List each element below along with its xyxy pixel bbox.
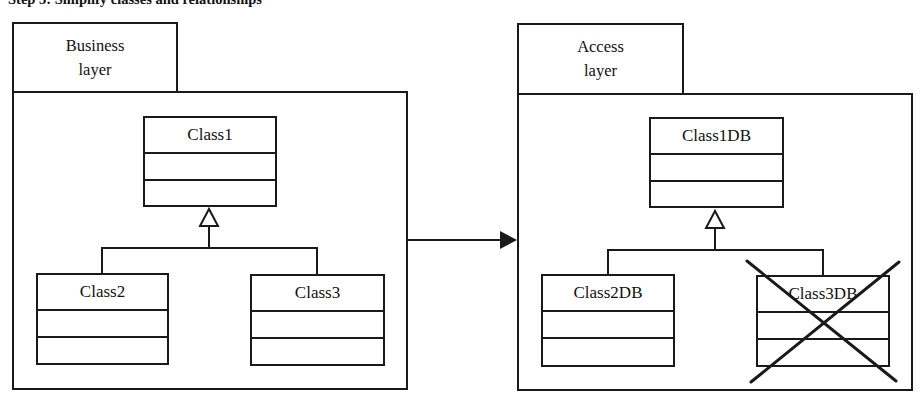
class-attributes [252,312,383,339]
class-name: Class2 [38,275,167,311]
class-attributes [543,312,673,339]
class-box-class2db: Class2DB [541,274,675,367]
class-box-class2: Class2 [36,273,169,365]
class-box-class1db: Class1DB [649,117,784,208]
class-name: Class2DB [543,276,673,312]
class-attributes [651,155,782,182]
business-layer-label-line2: layer [14,58,176,81]
class-attributes [758,313,888,340]
class-box-class1: Class1 [143,116,277,207]
class-box-class3: Class3 [250,274,385,366]
transform-arrow [408,231,517,249]
access-layer-label-line2: layer [519,59,682,82]
class-operations [651,182,782,206]
class-operations [758,340,888,364]
class-operations [252,339,383,363]
class-operations [145,181,275,205]
class-attributes [145,154,275,181]
class-operations [38,338,167,362]
access-layer-label-line1: Access [519,35,682,58]
class-attributes [38,311,167,338]
class-name: Class1DB [651,119,782,155]
class-box-class3db: Class3DB [756,275,890,367]
business-layer-tab: Business layer [12,22,178,93]
class-name: Class3 [252,276,383,312]
class-name: Class3DB [758,277,888,313]
class-name: Class1 [145,118,275,154]
class-operations [543,339,673,363]
access-layer-tab: Access layer [517,23,684,95]
business-layer-label-line1: Business [14,34,176,57]
diagram-title: Step 3: Simplify classes and relationshi… [8,0,262,8]
arrowhead-icon [500,231,517,249]
